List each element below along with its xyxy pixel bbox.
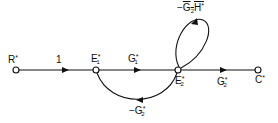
arrow-icon (136, 97, 143, 103)
node-r (13, 67, 19, 73)
node-label-r: R* (8, 55, 18, 65)
node-c (255, 67, 261, 73)
node-e1 (93, 67, 99, 73)
node-e2 (175, 67, 181, 73)
arrow-icon (134, 67, 141, 73)
node-label-c: C* (255, 75, 265, 85)
signal-flow-diagram: R* 1 E*1 G*1 E*2 G*2 C* −G*2 −G2H* (0, 0, 278, 123)
gain-label-e1-e2: G*1 (128, 54, 138, 64)
branch-e2-e1-feedback (97, 73, 177, 99)
gain-label-feedback: −G*2 (129, 106, 145, 116)
gain-label-r-e1: 1 (56, 55, 62, 65)
branch-e2-selfloop (176, 19, 209, 68)
arrow-icon (62, 67, 69, 73)
node-label-e2: E*2 (175, 76, 184, 86)
gain-label-selfloop: −G2H* (177, 3, 204, 13)
arrow-icon (220, 67, 227, 73)
gain-label-e2-c: G*2 (217, 77, 227, 87)
node-label-e1: E*1 (91, 54, 100, 64)
